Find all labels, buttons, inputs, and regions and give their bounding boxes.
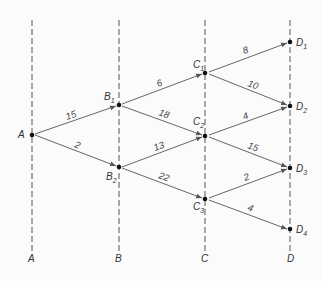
stage-label-a: A bbox=[27, 253, 35, 264]
node-label-b2: B2 bbox=[106, 171, 117, 184]
edge-weight-c2-d3: 15 bbox=[246, 140, 260, 154]
stage-label-c: C bbox=[201, 253, 209, 264]
edge-b1-c1 bbox=[122, 74, 202, 104]
edge-c3-d3 bbox=[209, 169, 287, 198]
edge-weight-b1-c1: 6 bbox=[155, 76, 164, 88]
node-d1 bbox=[288, 40, 293, 45]
node-label-d3: D3 bbox=[296, 163, 307, 176]
edge-c3-d4 bbox=[209, 200, 287, 229]
node-label-d4: D4 bbox=[296, 224, 307, 237]
node-d4 bbox=[288, 227, 293, 232]
node-label-b1: B1 bbox=[104, 91, 115, 104]
edge-c1-d1 bbox=[209, 43, 287, 72]
stage-label-b: B bbox=[115, 253, 122, 264]
edge-weight-c3-d3: 2 bbox=[241, 170, 251, 183]
node-b2 bbox=[117, 165, 122, 170]
network-diagram: A B1 B2 C1 C2 C3 D1 D2 D3 D4 A B C D 15 … bbox=[0, 0, 322, 281]
node-a bbox=[30, 133, 35, 138]
edge-a-b1 bbox=[35, 106, 116, 134]
node-b1 bbox=[117, 103, 122, 108]
node-label-d1: D1 bbox=[296, 37, 307, 50]
node-d3 bbox=[288, 166, 293, 171]
stage-label-d: D bbox=[287, 253, 294, 264]
edge-c2-d2 bbox=[209, 107, 287, 135]
node-d2 bbox=[288, 104, 293, 109]
diagram-canvas: A B1 B2 C1 C2 C3 D1 D2 D3 D4 A B C D 15 … bbox=[0, 0, 322, 281]
edge-c2-d3 bbox=[209, 137, 287, 167]
edge-a-b2 bbox=[35, 135, 116, 166]
edge-weight-c2-d2: 4 bbox=[241, 110, 250, 122]
node-c2 bbox=[203, 134, 208, 139]
node-label-a: A bbox=[17, 129, 25, 140]
node-label-d2: D2 bbox=[296, 101, 307, 114]
node-label-c1: C1 bbox=[193, 59, 204, 72]
edge-weight-b1-c2: 18 bbox=[157, 107, 171, 121]
edge-c1-d2 bbox=[209, 74, 287, 105]
node-c3 bbox=[203, 197, 208, 202]
edge-weight-c3-d4: 4 bbox=[246, 202, 255, 214]
node-label-c2: C2 bbox=[193, 116, 204, 129]
node-label-c3: C3 bbox=[193, 201, 204, 214]
edge-weight-c1-d1: 8 bbox=[241, 43, 250, 55]
edge-weight-a-b2: 2 bbox=[72, 138, 82, 151]
